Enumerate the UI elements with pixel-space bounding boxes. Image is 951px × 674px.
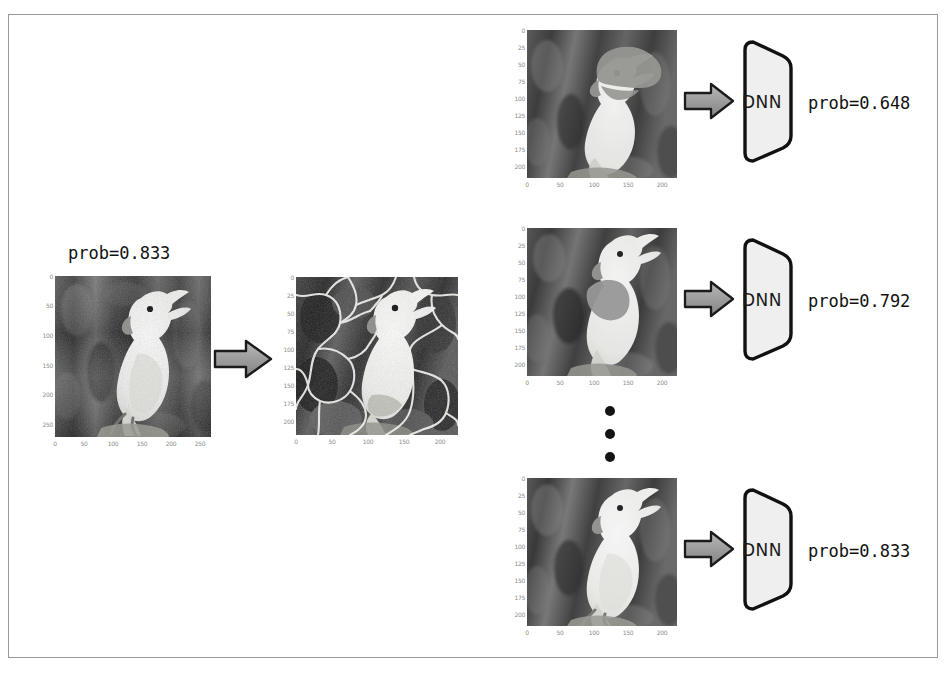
- perturbation-1-ytick-4: 100: [509, 95, 525, 102]
- perturbation-2-ytick-1: 25: [509, 242, 525, 249]
- ellipsis-dot-3: [605, 452, 615, 462]
- perturbation-3-ytick-3: 75: [509, 526, 525, 533]
- perturbation-2-xtick-3: 150: [621, 379, 635, 386]
- perturbation-2-canvas: [527, 228, 677, 376]
- perturbation-1-canvas: [527, 30, 677, 178]
- perturbation-1-ytick-0: 0: [509, 27, 525, 34]
- perturbation-2-ytick-3: 75: [509, 276, 525, 283]
- perturbation-1-ytick-1: 25: [509, 44, 525, 51]
- original-ytick-3: 150: [39, 362, 53, 369]
- segmented-xtick-4: 200: [433, 438, 447, 445]
- perturbation-3-xtick-2: 100: [587, 629, 601, 636]
- perturbation-2-ytick-4: 100: [509, 293, 525, 300]
- perturbation-3-ytick-4: 100: [509, 543, 525, 550]
- segmented-ytick-5: 125: [278, 364, 294, 371]
- perturbation-2-ytick-0: 0: [509, 225, 525, 232]
- segmented-image-canvas: [296, 277, 458, 435]
- perturbation-2-prob-label: prob=0.792: [808, 291, 910, 311]
- segmented-xtick-2: 100: [361, 438, 375, 445]
- perturbation-1-xtick-2: 100: [587, 181, 601, 188]
- perturbation-3-ytick-8: 200: [509, 611, 525, 618]
- original-ytick-0: 0: [39, 273, 53, 280]
- perturbation-3-ytick-6: 150: [509, 577, 525, 584]
- perturbation-3-prob-label: prob=0.833: [808, 541, 910, 561]
- cockatoo-superpixel-overlay: [296, 277, 458, 435]
- perturbation-3-ytick-5: 125: [509, 560, 525, 567]
- cockatoo-masked-head: [527, 30, 677, 178]
- perturbation-1-xtick-1: 50: [553, 181, 567, 188]
- original-image-canvas: [55, 276, 211, 437]
- ellipsis-dot-1: [605, 406, 615, 416]
- segmented-ytick-3: 75: [278, 328, 294, 335]
- segmented-xtick-3: 150: [397, 438, 411, 445]
- perturbation-1-ytick-7: 175: [509, 146, 525, 153]
- original-xtick-3: 150: [135, 440, 149, 447]
- dnn-block-2: DNN: [727, 236, 797, 363]
- perturbation-2-ytick-8: 200: [509, 361, 525, 368]
- figure-root: prob=0.833: [0, 0, 951, 674]
- original-ytick-1: 50: [39, 302, 53, 309]
- segmented-ytick-8: 200: [278, 418, 294, 425]
- perturbation-3-xtick-3: 150: [621, 629, 635, 636]
- segmented-ytick-1: 25: [278, 292, 294, 299]
- segmented-ytick-6: 150: [278, 382, 294, 389]
- vertical-ellipsis: [605, 406, 615, 462]
- original-xtick-4: 200: [164, 440, 178, 447]
- original-xtick-1: 50: [77, 440, 91, 447]
- perturbation-2-plot: 0 25 50 75 100 125 150 175 200 0 50 100 …: [527, 228, 677, 376]
- perturbation-1-prob-label: prob=0.648: [808, 93, 910, 113]
- perturbation-2-ytick-6: 150: [509, 327, 525, 334]
- segmented-ytick-4: 100: [278, 346, 294, 353]
- ellipsis-dot-2: [605, 429, 615, 439]
- segmented-xtick-0: 0: [289, 438, 303, 445]
- perturbation-1-xtick-3: 150: [621, 181, 635, 188]
- original-xtick-0: 0: [48, 440, 62, 447]
- transform-arrow: [213, 338, 273, 380]
- perturbation-2-xtick-2: 100: [587, 379, 601, 386]
- segmented-xtick-1: 50: [325, 438, 339, 445]
- segmented-ytick-7: 175: [278, 400, 294, 407]
- original-ytick-5: 250: [39, 421, 53, 428]
- segmented-image-plot: 0 25 50 75 100 125 150 175 200 0 50 100 …: [296, 277, 458, 435]
- dnn-block-3: DNN: [727, 486, 797, 613]
- perturbation-1-ytick-2: 50: [509, 61, 525, 68]
- cockatoo-photo: [55, 276, 211, 437]
- perturbation-1-xtick-4: 200: [655, 181, 669, 188]
- perturbation-1-ytick-8: 200: [509, 163, 525, 170]
- original-xtick-5: 250: [193, 440, 207, 447]
- perturbation-3-ytick-0: 0: [509, 475, 525, 482]
- perturbation-2-ytick-7: 175: [509, 344, 525, 351]
- perturbation-2-ytick-5: 125: [509, 310, 525, 317]
- dnn-label-3: DNN: [727, 486, 797, 613]
- original-prob-label: prob=0.833: [68, 243, 170, 263]
- perturbation-1-ytick-6: 150: [509, 129, 525, 136]
- cockatoo-unmasked: [527, 478, 677, 626]
- perturbation-3-plot: 0 25 50 75 100 125 150 175 200 0 50 100 …: [527, 478, 677, 626]
- perturbation-3-xtick-4: 200: [655, 629, 669, 636]
- perturbation-2-ytick-2: 50: [509, 259, 525, 266]
- perturbation-2-xtick-4: 200: [655, 379, 669, 386]
- segmented-ytick-0: 0: [278, 274, 294, 281]
- perturbation-3-ytick-7: 175: [509, 594, 525, 601]
- original-ytick-2: 100: [39, 332, 53, 339]
- perturbation-3-canvas: [527, 478, 677, 626]
- dnn-label-2: DNN: [727, 236, 797, 363]
- perturbation-1-ytick-3: 75: [509, 78, 525, 85]
- dnn-label-1: DNN: [727, 38, 797, 165]
- perturbation-3-xtick-1: 50: [553, 629, 567, 636]
- dnn-block-1: DNN: [727, 38, 797, 165]
- original-image-plot: 0 50 100 150 200 250 0 50 100 150 200 25…: [55, 276, 211, 437]
- original-ytick-4: 200: [39, 391, 53, 398]
- segmented-ytick-2: 50: [278, 310, 294, 317]
- perturbation-2-xtick-1: 50: [553, 379, 567, 386]
- cockatoo-masked-breast: [527, 228, 677, 376]
- original-xtick-2: 100: [106, 440, 120, 447]
- perturbation-3-ytick-2: 50: [509, 509, 525, 516]
- perturbation-1-xtick-0: 0: [520, 181, 534, 188]
- perturbation-2-xtick-0: 0: [520, 379, 534, 386]
- perturbation-3-xtick-0: 0: [520, 629, 534, 636]
- perturbation-1-plot: 0 25 50 75 100 125 150 175 200 0 50 100 …: [527, 30, 677, 178]
- perturbation-3-ytick-1: 25: [509, 492, 525, 499]
- perturbation-1-ytick-5: 125: [509, 112, 525, 119]
